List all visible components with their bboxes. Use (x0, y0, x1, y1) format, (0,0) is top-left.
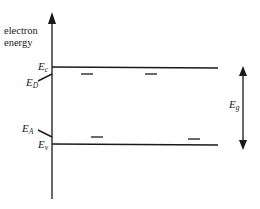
ev-label: Ev (37, 138, 49, 152)
conduction-band-line (52, 67, 218, 68)
valence-band-line (52, 144, 218, 145)
ed-label: ED (25, 76, 39, 90)
axis-label-electron: electron (4, 25, 39, 36)
acceptor-leader-line (38, 130, 52, 137)
axis-label-energy: energy (4, 37, 33, 48)
band-gap-arrow (239, 66, 247, 150)
axis-arrow-up-icon (48, 12, 56, 24)
eg-label: Eg (228, 98, 240, 112)
band-diagram: electron energy Ec ED EA Ev Eg (0, 0, 260, 209)
arrow-down-icon (239, 140, 247, 150)
ea-label: EA (21, 122, 34, 136)
donor-leader-line (38, 74, 52, 81)
ec-label: Ec (37, 60, 49, 74)
arrow-up-icon (239, 66, 247, 76)
energy-axis (48, 12, 56, 199)
